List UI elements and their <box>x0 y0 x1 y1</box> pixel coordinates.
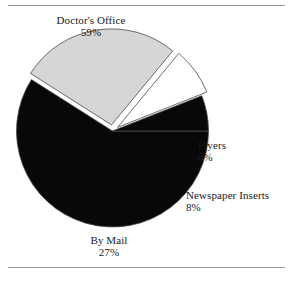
pie-label-doctors-office: Doctor's Office 59% <box>28 14 154 39</box>
pie-chart-figure: Doctor's Office 59% Flyers 6% Newspaper … <box>0 0 293 282</box>
bottom-rule <box>8 267 285 268</box>
pie-label-doctors-office-name: Doctor's Office <box>57 14 126 26</box>
pie-label-flyers-name: Flyers <box>198 139 226 151</box>
pie-label-doctors-office-percent: 59% <box>28 26 154 38</box>
pie-label-newspaper-inserts-name: Newspaper Inserts <box>186 189 269 201</box>
pie-label-newspaper-inserts: Newspaper Inserts 8% <box>186 189 292 214</box>
pie-label-by-mail: By Mail 27% <box>52 234 166 259</box>
pie-label-by-mail-name: By Mail <box>90 234 127 246</box>
pie-label-flyers: Flyers 6% <box>198 139 260 164</box>
pie-label-flyers-percent: 6% <box>198 151 260 163</box>
pie-label-newspaper-inserts-percent: 8% <box>186 201 292 213</box>
pie-label-by-mail-percent: 27% <box>52 246 166 258</box>
